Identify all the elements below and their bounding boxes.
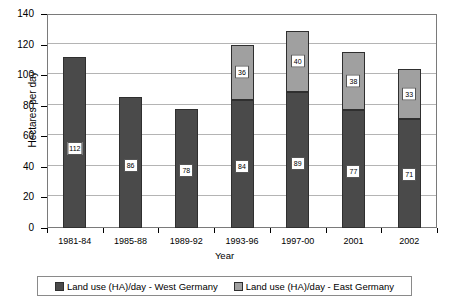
- x-axis-tick-mark: [158, 228, 159, 233]
- bar-segment-west-germany[interactable]: 77: [342, 110, 365, 228]
- bar-segment-west-germany[interactable]: 112: [63, 57, 86, 228]
- bar-value-label: 36: [235, 66, 249, 79]
- y-axis-tick-label: 0: [0, 222, 34, 233]
- bar-segment-east-germany[interactable]: 36: [231, 45, 254, 100]
- x-axis-tick-label: 1981-84: [58, 236, 91, 246]
- bar-value-label: 77: [346, 165, 360, 178]
- bar-value-label: 40: [291, 55, 305, 68]
- x-axis-tick-mark: [214, 228, 215, 233]
- legend-item[interactable]: Land use (HA)/day - West Germany: [55, 281, 218, 292]
- x-axis-tick-label: 2001: [343, 236, 363, 246]
- bar-segment-west-germany[interactable]: 71: [398, 119, 421, 228]
- bar-group[interactable]: 7133: [398, 14, 421, 228]
- y-axis-tick-label: 60: [0, 130, 34, 141]
- bar-group[interactable]: 8940: [286, 14, 309, 228]
- bar-group[interactable]: 7738: [342, 14, 365, 228]
- bar-series-layer: 11286788436894077387133: [47, 14, 437, 228]
- x-axis-tick-mark: [103, 228, 104, 233]
- bar-group[interactable]: 86: [119, 14, 142, 228]
- y-axis-tick-label: 20: [0, 191, 34, 202]
- bar-value-label: 38: [346, 75, 360, 88]
- bar-value-label: 86: [124, 159, 138, 172]
- bar-value-label: 84: [235, 160, 249, 173]
- legend-swatch-icon: [55, 282, 64, 291]
- legend-label: Land use (HA)/day - West Germany: [67, 281, 218, 292]
- legend-item[interactable]: Land use (HA)/day - East Germany: [234, 281, 394, 292]
- bar-segment-west-germany[interactable]: 78: [175, 109, 198, 228]
- bar-segment-west-germany[interactable]: 89: [286, 92, 309, 228]
- bar-value-label: 71: [402, 168, 416, 181]
- x-axis-title: Year: [0, 250, 449, 261]
- y-axis-tick-label: 140: [0, 8, 34, 19]
- bar-value-label: 78: [179, 164, 193, 177]
- y-axis-tick-label: 100: [0, 69, 34, 80]
- bar-segment-east-germany[interactable]: 33: [398, 69, 421, 119]
- bar-segment-east-germany[interactable]: 38: [342, 52, 365, 110]
- x-axis-tick-mark: [47, 228, 48, 233]
- chart-container: Hectares per day 020406080100120140 1128…: [0, 0, 449, 301]
- bar-segment-east-germany[interactable]: 40: [286, 31, 309, 92]
- x-axis-tick-label: 1985-88: [114, 236, 147, 246]
- x-axis-tick-mark: [437, 228, 438, 233]
- chart-legend: Land use (HA)/day - West GermanyLand use…: [37, 276, 412, 296]
- bar-segment-west-germany[interactable]: 86: [119, 97, 142, 228]
- bar-group[interactable]: 8436: [231, 14, 254, 228]
- bar-value-label: 89: [291, 157, 305, 170]
- y-axis-tick-label: 40: [0, 161, 34, 172]
- x-axis-tick-label: 1997-00: [281, 236, 314, 246]
- x-axis-tick-label: 1989-92: [170, 236, 203, 246]
- x-axis-tick-mark: [326, 228, 327, 233]
- y-axis-tick-label: 80: [0, 100, 34, 111]
- x-axis-tick-label: 1993-96: [225, 236, 258, 246]
- bar-segment-west-germany[interactable]: 84: [231, 100, 254, 228]
- y-axis-tick-label: 120: [0, 39, 34, 50]
- legend-label: Land use (HA)/day - East Germany: [246, 281, 394, 292]
- bar-group[interactable]: 78: [175, 14, 198, 228]
- bar-group[interactable]: 112: [63, 14, 86, 228]
- bar-value-label: 33: [402, 88, 416, 101]
- x-axis-tick-mark: [381, 228, 382, 233]
- bar-value-label: 112: [67, 142, 82, 155]
- x-axis-tick-mark: [270, 228, 271, 233]
- legend-swatch-icon: [234, 282, 243, 291]
- x-axis-tick-label: 2002: [399, 236, 419, 246]
